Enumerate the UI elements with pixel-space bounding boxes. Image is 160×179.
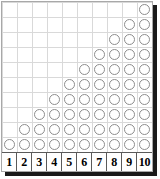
x-axis-label-text: 7 [92, 153, 106, 171]
circle-marker-icon [79, 139, 90, 150]
grid-cell [107, 47, 122, 62]
grid-cell [107, 62, 122, 77]
grid-cell [137, 47, 152, 62]
grid-cell [122, 77, 137, 92]
circle-marker-icon [49, 109, 60, 120]
circle-marker-icon [124, 79, 135, 90]
plot-grid-area [2, 2, 152, 152]
grid-cell [47, 92, 62, 107]
grid-cell [122, 92, 137, 107]
grid-cell [47, 137, 62, 152]
x-axis-label-text: 2 [17, 153, 31, 171]
circle-marker-icon [64, 124, 75, 135]
grid-cell [62, 92, 77, 107]
grid-cell [77, 107, 92, 122]
grid-cell [92, 47, 107, 62]
grid-cell [137, 32, 152, 47]
grid-cell [137, 107, 152, 122]
grid-cell [92, 92, 107, 107]
circle-marker-icon [109, 49, 120, 60]
circle-marker-icon [94, 94, 105, 105]
circle-marker-icon [124, 64, 135, 75]
grid-cell [17, 122, 32, 137]
grid-cell [137, 77, 152, 92]
circle-marker-icon [139, 139, 150, 150]
grid-cell [107, 107, 122, 122]
circle-marker-icon [64, 109, 75, 120]
circle-marker-icon [19, 124, 30, 135]
circle-marker-icon [139, 124, 150, 135]
grid-cell [77, 77, 92, 92]
grid-cell [92, 137, 107, 152]
grid-cell [122, 137, 137, 152]
grid-cell [77, 137, 92, 152]
x-axis-label-text: 3 [32, 153, 46, 171]
x-axis-label-cell: 7 [92, 153, 107, 171]
circle-marker-icon [34, 139, 45, 150]
circle-marker-icon [19, 139, 30, 150]
circle-marker-icon [139, 4, 150, 15]
x-axis-label-cell: 8 [107, 153, 122, 171]
grid-cell [92, 107, 107, 122]
grid-cell [107, 92, 122, 107]
circle-marker-icon [94, 64, 105, 75]
x-axis-label-cell: 1 [2, 153, 17, 171]
circle-marker-icon [139, 64, 150, 75]
circle-marker-icon [109, 139, 120, 150]
x-axis-label-cell: 2 [17, 153, 32, 171]
grid-cell [62, 77, 77, 92]
grid-cell [77, 62, 92, 77]
grid-cell [92, 122, 107, 137]
circle-marker-icon [139, 94, 150, 105]
circle-marker-icon [139, 79, 150, 90]
x-axis-label-text: 8 [107, 153, 121, 171]
circle-marker-icon [124, 49, 135, 60]
grid-cell [107, 137, 122, 152]
grid-cell [92, 62, 107, 77]
circle-marker-icon [4, 139, 15, 150]
x-axis-label-cell: 3 [32, 153, 47, 171]
grid-cell [2, 137, 17, 152]
circle-marker-icon [94, 124, 105, 135]
circle-marker-icon [109, 124, 120, 135]
circle-marker-icon [34, 124, 45, 135]
x-axis-label-cell: 5 [62, 153, 77, 171]
grid-cell [32, 122, 47, 137]
grid-cell [107, 122, 122, 137]
circle-marker-icon [124, 139, 135, 150]
x-axis-label-text: 9 [122, 153, 136, 171]
circle-marker-icon [49, 124, 60, 135]
circle-marker-icon [49, 139, 60, 150]
grid-cell [17, 137, 32, 152]
grid-cell [122, 32, 137, 47]
circle-marker-icon [79, 64, 90, 75]
chart-panel: 12345678910 [1, 1, 153, 172]
circle-marker-icon [124, 109, 135, 120]
circle-marker-icon [64, 139, 75, 150]
circle-marker-icon [109, 94, 120, 105]
grid-cell [122, 62, 137, 77]
grid-cell [77, 122, 92, 137]
grid-cell [137, 17, 152, 32]
circle-marker-icon [49, 94, 60, 105]
x-axis-label-text: 4 [47, 153, 61, 171]
circle-marker-icon [79, 79, 90, 90]
grid-cell [122, 47, 137, 62]
circle-marker-icon [124, 34, 135, 45]
grid-cell [32, 107, 47, 122]
grid-cell [77, 92, 92, 107]
circle-marker-icon [139, 49, 150, 60]
grid-cell [32, 137, 47, 152]
x-axis-label-cell: 6 [77, 153, 92, 171]
circle-marker-icon [124, 124, 135, 135]
grid-cell [137, 2, 152, 17]
grid-cell [137, 92, 152, 107]
circle-marker-icon [139, 34, 150, 45]
grid-cell [137, 137, 152, 152]
circle-marker-icon [64, 79, 75, 90]
circle-marker-icon [124, 19, 135, 30]
circle-marker-icon [94, 79, 105, 90]
circle-marker-icon [124, 94, 135, 105]
grid-cell [122, 17, 137, 32]
circle-marker-icon [139, 109, 150, 120]
